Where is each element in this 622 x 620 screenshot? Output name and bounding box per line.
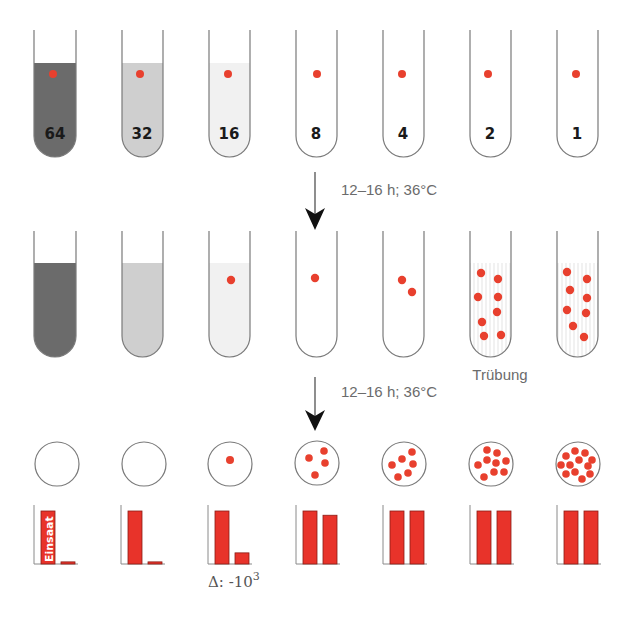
bar-recovered xyxy=(584,511,598,564)
agar-plate xyxy=(295,441,339,485)
bar-recovered xyxy=(497,511,511,564)
row-4-bar-charts xyxy=(34,505,601,564)
tube-result-4 xyxy=(383,231,424,357)
bacterium-icon xyxy=(493,308,501,316)
colony-icon xyxy=(566,461,574,469)
bacterium-icon xyxy=(563,306,571,314)
tube-result-16 xyxy=(209,231,250,357)
bacterium-icon xyxy=(572,70,580,78)
agar-plate xyxy=(469,442,513,486)
concentration-label: 2 xyxy=(485,125,495,143)
bacterium-icon xyxy=(497,331,505,339)
bar-recovered xyxy=(323,515,337,564)
colony-icon xyxy=(483,446,491,454)
agar-plate xyxy=(382,442,426,486)
bar-chart-8 xyxy=(296,505,340,564)
concentration-label: 4 xyxy=(398,125,408,143)
bar-recovered xyxy=(61,562,75,564)
bar-chart-16 xyxy=(208,505,252,564)
mic-diagram: 64 32 16 8 4 xyxy=(0,0,622,620)
row-3-plates xyxy=(35,441,600,486)
bacterium-icon xyxy=(563,268,571,276)
incubation-condition-label: 12–16 h; 36°C xyxy=(341,181,437,198)
bar-chart-2 xyxy=(470,505,514,564)
bacterium-icon xyxy=(136,70,144,78)
row-1-tubes: 64 32 16 8 4 xyxy=(34,30,598,157)
colony-icon xyxy=(394,473,402,481)
incubation-condition-label: 12–16 h; 36°C xyxy=(341,383,437,400)
bar-recovered xyxy=(410,511,424,564)
bar-inoculum xyxy=(215,511,229,564)
colony-icon xyxy=(588,456,596,464)
colony-icon xyxy=(388,461,396,469)
bar-inoculum xyxy=(564,511,578,564)
bacterium-icon xyxy=(494,293,502,301)
agar-plate xyxy=(122,442,166,486)
colony-icon xyxy=(409,460,417,468)
bar-recovered xyxy=(235,553,249,564)
bacterium-icon xyxy=(408,288,416,296)
agar-plate xyxy=(208,442,252,486)
bacterium-icon xyxy=(224,70,232,78)
tube-result-2-turbid xyxy=(470,231,511,357)
colony-icon xyxy=(581,449,589,457)
colony-icon xyxy=(305,454,313,462)
bacterium-icon xyxy=(227,276,235,284)
colony-icon xyxy=(571,447,579,455)
colony-icon xyxy=(502,457,510,465)
bar-inoculum xyxy=(303,511,317,564)
tube-result-8 xyxy=(296,231,337,357)
bacterium-icon xyxy=(478,318,486,326)
tube-8: 8 xyxy=(296,30,337,157)
bar-inoculum xyxy=(477,511,491,564)
bar-chart-1 xyxy=(557,505,601,564)
bacterium-icon xyxy=(477,269,485,277)
bacterium-icon xyxy=(494,275,502,283)
colony-icon xyxy=(500,468,508,476)
concentration-label: 32 xyxy=(132,125,153,143)
colony-icon xyxy=(480,473,488,481)
bar-chart-64 xyxy=(34,505,78,564)
bacterium-icon xyxy=(398,276,406,284)
colony-icon xyxy=(474,461,482,469)
tube-result-32 xyxy=(122,231,163,357)
bacterium-icon xyxy=(49,70,57,78)
bacterium-icon xyxy=(566,286,574,294)
bacterium-icon xyxy=(474,293,482,301)
colony-icon xyxy=(321,459,329,467)
chart-axis xyxy=(121,505,165,564)
concentration-label: 64 xyxy=(45,125,66,143)
tube-result-1-turbid xyxy=(557,231,598,357)
chart-axis xyxy=(34,505,78,564)
colony-icon xyxy=(562,452,570,460)
arrow-incubation-1: 12–16 h; 36°C xyxy=(305,172,437,230)
bar-recovered xyxy=(148,562,162,564)
tube-2: 2 xyxy=(470,30,511,157)
bacterium-icon xyxy=(582,309,590,317)
colony-icon xyxy=(571,468,579,476)
bacterium-icon xyxy=(484,70,492,78)
reduction-delta-label: Δ: -103 xyxy=(208,570,260,591)
bar-inoculum xyxy=(128,511,142,564)
colony-icon xyxy=(586,470,594,478)
bar-chart-32 xyxy=(121,505,165,564)
tube-64: 64 xyxy=(34,30,76,157)
colony-icon xyxy=(320,447,328,455)
bacterium-icon xyxy=(569,322,577,330)
tube-32: 32 xyxy=(122,30,163,157)
bacterium-icon xyxy=(480,332,488,340)
delta-exponent: 3 xyxy=(253,570,260,583)
bacterium-icon xyxy=(580,333,588,341)
colony-icon xyxy=(311,471,319,479)
turbidity-label: Trübung xyxy=(472,366,527,383)
colony-icon xyxy=(483,456,491,464)
bar-chart-4 xyxy=(383,505,427,564)
arrow-incubation-2: 12–16 h; 36°C xyxy=(305,377,437,431)
bacterium-icon xyxy=(398,70,406,78)
colony-icon xyxy=(490,468,498,476)
concentration-label: 1 xyxy=(572,125,582,143)
colony-icon xyxy=(575,456,583,464)
bar-inoculum xyxy=(390,511,404,564)
tube-16: 16 xyxy=(209,30,250,157)
bacterium-icon xyxy=(313,70,321,78)
